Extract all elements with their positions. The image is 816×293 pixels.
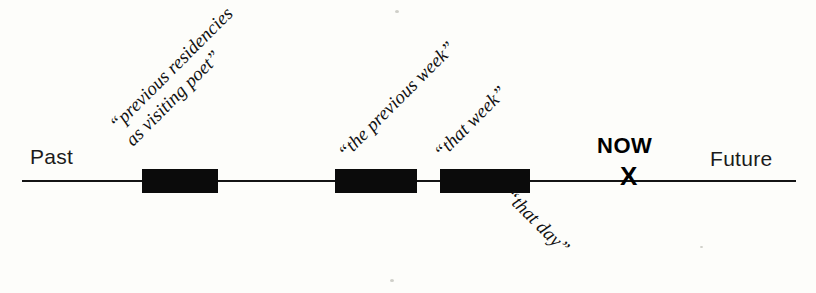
future-label: Future xyxy=(710,147,773,171)
label-line-1: “that day” xyxy=(501,184,574,257)
past-label: Past xyxy=(30,145,73,169)
now-label: NOW xyxy=(597,133,652,159)
label-previous-residencies: “previous residencies as visiting poet” xyxy=(105,3,268,166)
scan-speck xyxy=(700,246,703,248)
label-that-day: “that day” xyxy=(500,184,574,258)
interval-bar-the-previous-week xyxy=(335,169,417,193)
now-marker-x: X xyxy=(620,163,637,189)
label-line-1: “that week” xyxy=(430,82,511,163)
label-that-week: “that week” xyxy=(430,82,514,166)
scan-speck xyxy=(395,10,399,13)
scan-speck xyxy=(390,279,394,282)
interval-bar-previous-residencies xyxy=(142,169,218,193)
timeline-diagram: Past Future NOW X “previous residencies … xyxy=(0,0,816,293)
